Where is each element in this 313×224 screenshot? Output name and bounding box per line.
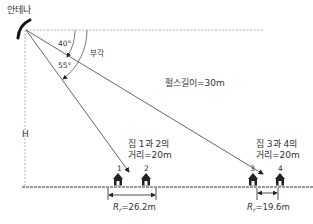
depression-angle-label: 부각 (90, 50, 104, 58)
house-4-icon (275, 173, 285, 186)
angle-40-label: 40° (58, 40, 71, 48)
houses-3-4-distance-line1: 집 3과 4의 (256, 140, 297, 149)
house-4-number: 4 (278, 165, 283, 173)
antenna-label: 안테나 (7, 6, 31, 15)
height-label: H (22, 130, 29, 139)
houses-1-2-distance-line2: 거리=20m (128, 151, 172, 160)
ray-to-houses-1-2 (26, 30, 129, 172)
house-3-number: 3 (250, 165, 255, 173)
range-1-2-label: Rr=26.2m (113, 203, 156, 213)
house-3-icon (248, 173, 258, 186)
house-1-icon (113, 173, 123, 186)
angle-55-label: 55° (58, 62, 71, 70)
range-3-4-label: Rr=19.6m (247, 203, 290, 213)
house-2-number: 2 (144, 165, 149, 173)
house-2-icon (141, 173, 151, 186)
pulse-length-label: 펄스길이=30m (165, 79, 225, 88)
antenna-icon (18, 20, 30, 38)
house-1-number: 1 (117, 165, 122, 173)
diagram-canvas (0, 0, 313, 224)
houses-1-2-distance-line1: 집 1과 2의 (128, 140, 169, 149)
houses-3-4-distance-line2: 거리=20m (256, 151, 300, 160)
